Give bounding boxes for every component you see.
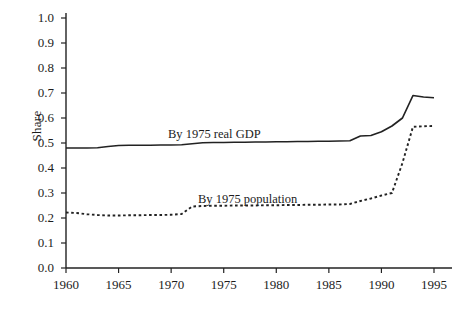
y-axis-tick-label: 1.0 [20, 11, 54, 24]
x-axis-tick-label: 1970 [150, 278, 192, 291]
x-axis-tick-label: 1960 [45, 278, 87, 291]
y-axis-tick-label: 0.9 [20, 36, 54, 49]
y-axis-tick-label: 0.6 [20, 111, 54, 124]
y-axis-tick-label: 0.4 [20, 161, 54, 174]
y-axis-tick-label: 0.8 [20, 61, 54, 74]
y-axis-title: Share [29, 91, 45, 161]
y-axis-tick-label: 0.5 [20, 136, 54, 149]
chart-figure: Share 0.00.10.20.30.40.50.60.70.80.91.01… [0, 0, 458, 322]
y-axis-tick-label: 0.2 [20, 211, 54, 224]
x-axis-tick-label: 1980 [255, 278, 297, 291]
x-axis-tick-label: 1995 [413, 278, 455, 291]
x-axis-tick-label: 1990 [360, 278, 402, 291]
y-axis-tick-label: 0.1 [20, 236, 54, 249]
x-axis-tick-label: 1985 [308, 278, 350, 291]
chart-plot-area [0, 0, 458, 322]
y-axis-tick-label: 0.0 [20, 261, 54, 274]
y-axis-tick-label: 0.7 [20, 86, 54, 99]
y-axis-tick-label: 0.3 [20, 186, 54, 199]
x-axis-tick-label: 1965 [98, 278, 140, 291]
series-annotation-1: By 1975 real GDP [168, 128, 261, 141]
series-annotation-2: By 1975 population [198, 193, 297, 206]
x-axis-tick-label: 1975 [203, 278, 245, 291]
